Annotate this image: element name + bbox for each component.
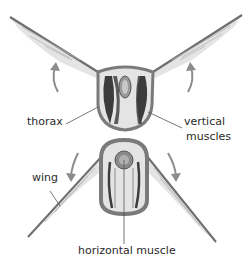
wing-label: wing [32, 172, 58, 184]
vertical-muscles-label-line2: muscles [186, 131, 231, 143]
thorax-top [98, 67, 153, 130]
arrow-up-left-icon [50, 62, 60, 92]
thorax-label: thorax [27, 116, 63, 128]
vertical-muscles-leader-line [148, 112, 182, 128]
wing-leader-line [50, 191, 60, 206]
vertical-muscles-label-line1: vertical [184, 116, 225, 128]
right-wing-down [146, 155, 216, 242]
arrow-down-right-icon [168, 153, 181, 182]
right-wing-up [153, 15, 242, 78]
arrow-up-right-icon [186, 62, 196, 92]
upstroke-panel [10, 15, 242, 130]
downstroke-panel [28, 140, 216, 242]
left-wing-down [28, 155, 103, 237]
horizontal-muscle-label: horizontal muscle [78, 245, 176, 257]
arrow-down-left-icon [66, 153, 78, 182]
thorax-leader-line [66, 107, 98, 124]
